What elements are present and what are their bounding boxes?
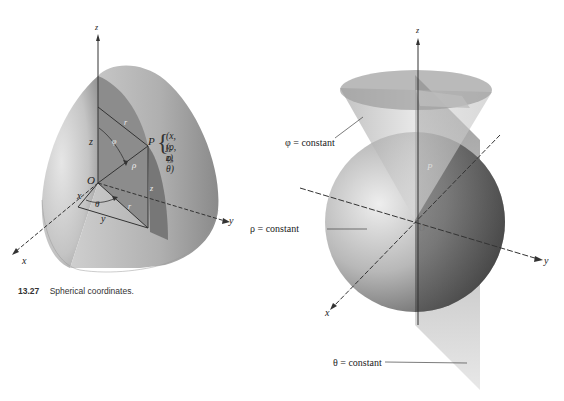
theta-constant-label: θ = constant (333, 357, 382, 368)
right-x-axis-label: x (325, 307, 329, 318)
phi-constant-label: φ = constant (285, 137, 335, 148)
left-y-len-label: y (101, 213, 105, 224)
point-spherical: (ρ, φ, θ) (166, 142, 176, 175)
left-origin-label: O (87, 174, 95, 186)
left-z-axis-label: z (95, 23, 98, 32)
right-y-axis-label: y (544, 255, 548, 266)
caption-text: Spherical coordinates. (50, 286, 134, 296)
left-x-len-label: x (77, 190, 81, 201)
left-r-bottom-label: r (128, 202, 131, 211)
left-theta-label: θ (95, 199, 99, 209)
left-figure (12, 34, 230, 272)
left-rho-label: ρ (132, 160, 136, 170)
point-p-label: P (148, 136, 155, 147)
left-y-axis-label: y (229, 215, 233, 226)
rho-constant-label: ρ = constant (250, 223, 299, 234)
left-r-top-label: r (124, 118, 127, 127)
figure-caption: 13.27 Spherical coordinates. (18, 286, 134, 296)
left-phi-label: φ (112, 137, 116, 146)
right-figure (300, 38, 543, 390)
spherical-figures (0, 0, 564, 401)
left-z-vertical-label: z (150, 184, 153, 193)
caption-number: 13.27 (18, 286, 39, 296)
right-z-axis-label: z (416, 26, 419, 35)
left-x-axis-label: x (22, 255, 26, 266)
right-point-label: P (427, 162, 433, 172)
right-origin-label: O (419, 224, 425, 233)
left-z-height-label: z (89, 136, 93, 147)
